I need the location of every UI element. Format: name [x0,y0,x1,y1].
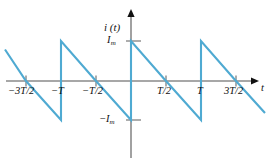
x-tick-label-minus-T-over-2: −T/2 [82,86,103,97]
y-label-im-negative: −Im [100,114,115,126]
x-tick-label-T-over-2: T/2 [157,86,171,97]
im-negative-symbol: I [106,113,110,124]
x-tick-label-minus-T-over-2-text: −T/2 [82,85,103,96]
x-tick-label-T-text: T [197,85,203,96]
x-tick-label-T: T [197,86,203,97]
x-tick-label-minus-T: −T [51,86,64,97]
im-negative-subscript: m [110,118,115,126]
x-tick-label-3T-over-2-text: 3T/2 [224,85,243,96]
y-axis-arrowhead [127,9,134,17]
x-tick-label-minus-T-text: −T [51,85,64,96]
x-axis-label: t [261,83,264,94]
x-tick-label-T-over-2-text: T/2 [157,85,171,96]
y-label-im-positive: Im [107,35,116,47]
y-axis-label: i (t) [104,22,120,33]
x-tick-label-minus-3T-over-2-text: −3T/2 [8,85,34,96]
x-tick-label-3T-over-2: 3T/2 [224,86,243,97]
sawtooth-waveform-figure: i (t) t Im −Im −3T/2 −T −T/2 T/2 T 3T/2 [0,0,272,160]
plot-canvas [0,0,272,160]
y-axis-label-text: i (t) [104,21,120,33]
x-tick-label-minus-3T-over-2: −3T/2 [8,86,34,97]
x-axis-label-text: t [261,82,264,93]
x-axis-arrowhead [251,77,259,84]
im-positive-symbol: I [107,34,111,45]
im-positive-subscript: m [111,39,116,47]
